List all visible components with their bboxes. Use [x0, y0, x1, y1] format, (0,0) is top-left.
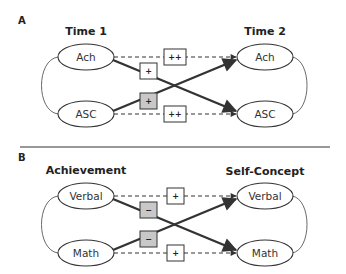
svg-text:+: + — [172, 249, 179, 258]
svg-text:Ach: Ach — [76, 51, 95, 63]
node-time2-ach: Ach — [237, 44, 293, 70]
reciprocal-effects-diagram: A Time 1 Time 2 Ach ASC Ach ASC — [0, 0, 346, 274]
svg-text:++: ++ — [168, 53, 181, 62]
panel-b-right-header: Self-Concept — [226, 165, 305, 178]
node-time1-asc: ASC — [58, 101, 114, 127]
sign-box-math-to-verbal: − — [140, 231, 157, 247]
panel-a: A Time 1 Time 2 Ach ASC Ach ASC — [18, 15, 307, 127]
sign-box-verbal-to-math: − — [140, 202, 157, 218]
node-achievement-math: Math — [58, 240, 114, 266]
panel-b-label: B — [18, 152, 26, 163]
panel-b-left-header: Achievement — [46, 164, 127, 177]
sign-box-asc-to-ach: + — [140, 93, 157, 109]
right-correlation-curve — [292, 57, 307, 114]
left-correlation-curve — [42, 57, 59, 114]
svg-text:Verbal: Verbal — [248, 190, 281, 202]
svg-text:Math: Math — [73, 247, 99, 259]
svg-text:+: + — [172, 192, 179, 201]
panel-a-left-header: Time 1 — [65, 25, 107, 38]
svg-text:Verbal: Verbal — [69, 190, 102, 202]
sign-box-verbal: + — [167, 188, 184, 204]
sign-box-asc-stability: ++ — [164, 106, 186, 122]
svg-text:++: ++ — [168, 110, 181, 119]
sign-box-ach-stability: ++ — [164, 49, 186, 65]
svg-text:ASC: ASC — [254, 108, 275, 120]
svg-text:−: − — [145, 206, 152, 215]
node-selfconcept-verbal: Verbal — [237, 183, 293, 209]
node-time1-ach: Ach — [58, 44, 114, 70]
svg-text:+: + — [145, 97, 152, 106]
panel-b: B Achievement Self-Concept Verbal Math V… — [18, 152, 307, 266]
node-time2-asc: ASC — [237, 101, 293, 127]
svg-text:Math: Math — [252, 247, 278, 259]
panel-a-label: A — [18, 15, 26, 26]
left-correlation-curve — [42, 196, 59, 253]
svg-text:−: − — [145, 235, 152, 244]
right-correlation-curve — [292, 196, 307, 253]
svg-text:ASC: ASC — [75, 108, 96, 120]
sign-box-math: + — [167, 245, 184, 261]
node-selfconcept-math: Math — [237, 240, 293, 266]
sign-box-ach-to-asc: + — [140, 63, 157, 79]
panel-a-right-header: Time 2 — [244, 25, 286, 38]
svg-text:+: + — [145, 67, 152, 76]
svg-text:Ach: Ach — [255, 51, 274, 63]
node-achievement-verbal: Verbal — [58, 183, 114, 209]
